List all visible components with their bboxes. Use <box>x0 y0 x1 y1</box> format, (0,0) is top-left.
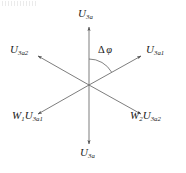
ray-u3a2-upper-left <box>38 56 89 85</box>
phasor-rays-group <box>38 27 141 144</box>
label-w2-u3a2: W2U3a2 <box>130 110 161 121</box>
label-delta-phi: Δφ <box>98 45 112 56</box>
delta-symbol: Δ <box>98 44 105 55</box>
label-w1-u3a1: W1U3a1 <box>12 110 43 121</box>
label-u3a-top: U3a <box>78 8 93 19</box>
phasor-diagram-figure: U3a U3a2 U3a1 W1U3a1 W2U3a2 U3a Δφ <box>0 0 186 173</box>
ray-w1u3a1-lower-left <box>38 85 89 114</box>
label-u3a-bottom: U3a <box>80 147 95 158</box>
delta-phi-arc <box>89 59 112 72</box>
label-u3a2-left: U3a2 <box>10 44 28 55</box>
label-u3a1-right: U3a1 <box>146 44 164 55</box>
phi-symbol: φ <box>105 44 112 55</box>
